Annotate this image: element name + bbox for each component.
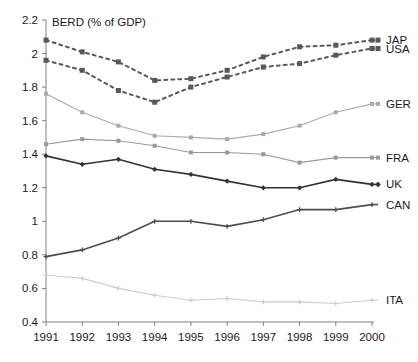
data-point-usa (261, 65, 266, 70)
legend-marker-jap (376, 38, 381, 43)
data-point-jap (116, 59, 121, 64)
data-point-ita (189, 298, 194, 303)
data-point-uk (225, 179, 230, 184)
data-point-ger (44, 92, 48, 96)
series-line-can (46, 205, 372, 257)
y-tick-label: 2.2 (22, 14, 38, 26)
data-point-ita (152, 293, 157, 298)
x-tick-label: 1996 (214, 331, 240, 343)
data-point-can (80, 248, 85, 253)
x-tick-label: 1993 (106, 331, 132, 343)
data-point-can (297, 207, 302, 212)
x-tick-label: 1997 (251, 331, 277, 343)
data-point-uk (152, 167, 157, 172)
data-point-uk (116, 157, 121, 162)
data-point-fra (298, 161, 302, 165)
data-point-fra (261, 152, 265, 156)
y-tick-label: 1 (32, 215, 38, 227)
data-point-jap (80, 49, 85, 54)
chart-canvas: 0.40.60.811.21.41.61.822.2 1991199219931… (0, 0, 418, 362)
data-point-uk (188, 172, 193, 177)
legend-label-ger: GER (386, 98, 411, 110)
data-point-fra (189, 151, 193, 155)
data-point-can (333, 207, 338, 212)
data-point-jap (297, 44, 302, 49)
data-point-jap (188, 76, 193, 81)
data-point-can (116, 236, 121, 241)
data-point-ita (333, 301, 338, 306)
y-tick-label: 1.8 (22, 81, 38, 93)
legend-marker-ger (376, 102, 380, 106)
series-line-ita (46, 275, 372, 304)
data-point-uk (333, 177, 338, 182)
data-point-can (261, 217, 266, 222)
data-point-can (189, 219, 194, 224)
y-tick-label: 0.4 (22, 316, 39, 328)
data-point-fra (153, 144, 157, 148)
data-point-ita (261, 300, 266, 305)
legend-marker-uk (375, 182, 381, 188)
data-point-fra (225, 151, 229, 155)
y-tick-label: 0.6 (22, 282, 38, 294)
data-point-usa (80, 68, 85, 73)
data-point-ita (116, 286, 121, 291)
data-point-ita (44, 273, 49, 278)
y-tick-label: 1.4 (22, 148, 39, 160)
chart-series-group (46, 40, 372, 303)
legend-label-ita: ITA (386, 294, 403, 306)
x-tick-label: 1992 (69, 331, 95, 343)
chart-markers-group (43, 38, 374, 306)
data-point-fra (334, 156, 338, 160)
data-point-can (225, 224, 230, 229)
y-tick-label: 1.2 (22, 182, 38, 194)
x-tick-label: 1998 (287, 331, 313, 343)
data-point-usa (225, 75, 230, 80)
data-point-uk (80, 162, 85, 167)
berd-line-chart: 0.40.60.811.21.41.61.822.2 1991199219931… (0, 0, 418, 362)
data-point-usa (333, 53, 338, 58)
data-point-usa (297, 61, 302, 66)
data-point-jap (261, 54, 266, 59)
x-tick-label: 1999 (323, 331, 349, 343)
data-point-ita (225, 296, 230, 301)
legend-label-usa: USA (386, 43, 410, 55)
chart-legend: JAPUSAGERFRAUKCANITA (372, 34, 411, 306)
legend-label-fra: FRA (386, 152, 409, 164)
data-point-uk (297, 185, 302, 190)
x-tick-label: 2000 (359, 331, 385, 343)
data-point-usa (116, 88, 121, 93)
x-tick-label: 1991 (33, 331, 59, 343)
y-axis-tick-labels: 0.40.60.811.21.41.61.822.2 (22, 14, 46, 328)
series-line-ger (46, 94, 372, 139)
data-point-ita (80, 276, 85, 281)
data-point-ger (298, 124, 302, 128)
data-point-jap (333, 43, 338, 48)
data-point-ger (80, 110, 84, 114)
data-point-ger (116, 124, 120, 128)
data-point-ger (225, 137, 229, 141)
data-point-fra (80, 137, 84, 141)
data-point-ger (261, 132, 265, 136)
data-point-can (152, 219, 157, 224)
data-point-jap (44, 38, 49, 43)
y-tick-label: 1.6 (22, 115, 38, 127)
data-point-ger (153, 134, 157, 138)
legend-marker-usa (376, 46, 381, 51)
legend-label-can: CAN (386, 199, 410, 211)
chart-title: BERD (% of GDP) (52, 16, 146, 28)
x-tick-label: 1994 (142, 331, 168, 343)
data-point-ger (189, 135, 193, 139)
x-axis-tick-labels: 1991199219931994199519961997199819992000 (33, 322, 385, 343)
data-point-jap (225, 68, 230, 73)
data-point-fra (44, 142, 48, 146)
data-point-usa (44, 58, 49, 63)
x-tick-label: 1995 (178, 331, 204, 343)
data-point-fra (116, 139, 120, 143)
data-point-usa (188, 85, 193, 90)
y-tick-label: 0.8 (22, 249, 38, 261)
data-point-ita (297, 300, 302, 305)
data-point-jap (152, 78, 157, 83)
legend-marker-fra (376, 156, 380, 160)
data-point-uk (261, 185, 266, 190)
series-line-fra (46, 139, 372, 163)
